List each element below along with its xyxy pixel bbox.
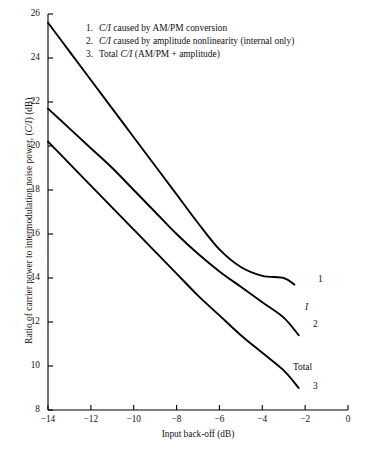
legend-item-number: 3. (86, 48, 99, 61)
legend: 1.C/I caused by AM/PM conversion2.C/I ca… (86, 22, 294, 62)
y-tick-label: 8 (14, 405, 40, 414)
y-tick-label: 20 (14, 141, 40, 150)
figure-container: Ratio of carrier power to intermodulatio… (0, 0, 366, 454)
legend-item-number: 2. (86, 35, 99, 48)
legend-item-prefix: Total (99, 49, 120, 59)
legend-item-2: 2.C/I caused by amplitude nonlinearity (… (86, 35, 294, 48)
curve-1 (48, 23, 294, 285)
x-tick-label: 0 (333, 415, 363, 424)
legend-item-3: 3.Total C/I (AM/PM + amplitude) (86, 48, 294, 61)
x-tick-label: −12 (76, 415, 106, 424)
y-tick-label: 12 (14, 317, 40, 326)
curve-2 (48, 109, 299, 336)
x-tick-label: −2 (290, 415, 320, 424)
data-curves (48, 23, 299, 388)
legend-item-text: caused by amplitude nonlinearity (intern… (111, 36, 294, 46)
x-tick-label: −10 (119, 415, 149, 424)
y-axis-ticks (48, 14, 53, 410)
x-tick-label: −8 (162, 415, 192, 424)
x-tick-label: −6 (204, 415, 234, 424)
y-tick-label: 10 (14, 361, 40, 370)
y-tick-label: 14 (14, 273, 40, 282)
y-tick-label: 24 (14, 53, 40, 62)
x-axis-ticks (48, 405, 348, 410)
legend-item-1: 1.C/I caused by AM/PM conversion (86, 22, 294, 35)
x-tick-label: −14 (33, 415, 63, 424)
y-tick-label: 18 (14, 185, 40, 194)
y-tick-label: 22 (14, 97, 40, 106)
y-axis-title-symbol: C/I (24, 120, 34, 132)
legend-item-symbol: C/I (99, 36, 111, 46)
y-tick-label: 26 (14, 9, 40, 18)
curve-2-mid-label: I (305, 303, 308, 312)
x-axis-title: Input back-off (dB) (48, 430, 348, 439)
x-tick-label: −4 (247, 415, 277, 424)
curve-2-end-label: 2 (313, 320, 318, 329)
legend-item-symbol: C/I (99, 23, 111, 33)
curve-3-end-label: 3 (313, 382, 318, 391)
y-tick-label: 16 (14, 229, 40, 238)
legend-item-symbol: C/I (120, 49, 132, 59)
legend-item-text: caused by AM/PM conversion (111, 23, 227, 33)
curve-3 (48, 142, 299, 388)
curve-1-end-label: 1 (318, 275, 323, 284)
chart-plot-area (0, 0, 366, 454)
legend-item-number: 1. (86, 22, 99, 35)
curve-3-mid-label: Total (293, 363, 312, 372)
legend-item-text: (AM/PM + amplitude) (132, 49, 219, 59)
